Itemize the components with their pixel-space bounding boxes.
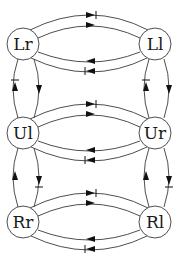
arrow-left-icon xyxy=(86,58,95,64)
arrow-right-with-bar-icon xyxy=(86,11,96,19)
arrow-up-with-bar-icon xyxy=(11,80,19,91)
arrow-right-icon xyxy=(86,200,95,206)
arrow-right-with-bar-icon xyxy=(86,100,96,108)
arrow-left-with-bar-icon xyxy=(85,67,95,75)
nodes: Lr Ll Ul Ur Rr Rl xyxy=(7,28,171,238)
edge-lr-ll-outer xyxy=(30,15,148,30)
node-label: Ll xyxy=(147,34,164,54)
node-lr: Lr xyxy=(7,28,39,60)
arrow-up-with-bar-icon xyxy=(142,80,150,91)
edge-lr-ll-inner xyxy=(38,26,140,38)
node-label: Ur xyxy=(144,123,167,143)
arrow-left-icon xyxy=(86,236,95,242)
arrow-left-with-bar-icon xyxy=(85,245,95,253)
arrow-right-icon xyxy=(86,22,95,28)
node-label: Ul xyxy=(13,123,33,143)
node-ur: Ur xyxy=(139,117,171,149)
edge-ul-ur-inner xyxy=(38,115,140,127)
node-rl: Rl xyxy=(139,206,171,238)
arrow-down-icon xyxy=(36,85,42,94)
node-ll: Ll xyxy=(139,28,171,60)
arrow-down-icon xyxy=(166,85,172,94)
node-label: Rr xyxy=(13,212,35,232)
node-label: Rl xyxy=(146,212,164,232)
edge-ul-ur-outer xyxy=(30,104,148,119)
arrow-right-icon xyxy=(86,111,95,117)
node-rr: Rr xyxy=(7,206,39,238)
node-label: Lr xyxy=(13,34,33,54)
state-diagram: Lr Ll Ul Ur Rr Rl xyxy=(0,0,182,273)
arrow-left-icon xyxy=(86,147,95,153)
edge-rr-rl-outer xyxy=(30,193,148,208)
node-ul: Ul xyxy=(7,117,39,149)
arrow-right-with-bar-icon xyxy=(86,189,96,197)
arrow-left-with-bar-icon xyxy=(85,156,95,164)
edge-rr-rl-inner xyxy=(38,204,140,216)
